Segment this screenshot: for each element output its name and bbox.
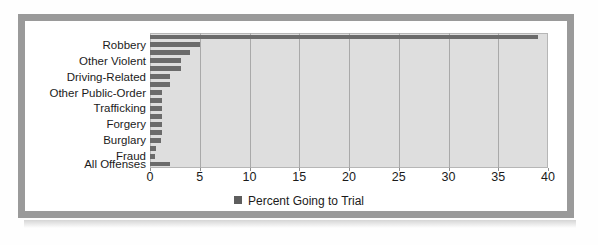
bar-chart: RobberyOther ViolentDriving-RelatedOther… <box>0 0 598 245</box>
bar <box>150 98 162 103</box>
y-axis-label: All Offenses <box>20 158 146 170</box>
bar <box>150 106 162 111</box>
bar <box>150 74 170 79</box>
bar <box>150 122 162 127</box>
y-axis-label: Burglary <box>20 134 146 146</box>
figure-root: RobberyOther ViolentDriving-RelatedOther… <box>0 0 598 245</box>
y-axis-label: Other Public-Order <box>20 87 146 99</box>
bars-layer <box>150 33 548 168</box>
bar <box>150 58 181 63</box>
legend: Percent Going to Trial <box>0 193 598 208</box>
x-axis-tick-labels: 0510152025303540 <box>0 170 598 188</box>
bar <box>150 154 155 159</box>
x-axis-label-25: 25 <box>392 170 406 184</box>
bar <box>150 35 538 40</box>
bar <box>150 114 162 119</box>
x-axis-label-10: 10 <box>243 170 257 184</box>
legend-label: Percent Going to Trial <box>248 194 364 208</box>
y-axis-label: Other Violent <box>20 55 146 67</box>
bar <box>150 66 181 71</box>
y-axis-label: Robbery <box>20 39 146 51</box>
bar <box>150 42 200 47</box>
y-axis-label: Forgery <box>20 118 146 130</box>
x-axis-label-0: 0 <box>147 170 154 184</box>
legend-swatch-icon <box>234 196 242 204</box>
bar <box>150 50 190 55</box>
bar <box>150 90 162 95</box>
bar <box>150 162 170 167</box>
bar <box>150 138 161 143</box>
x-axis-label-30: 30 <box>442 170 456 184</box>
y-axis-tick-labels: RobberyOther ViolentDriving-RelatedOther… <box>20 33 146 168</box>
x-axis-label-35: 35 <box>491 170 505 184</box>
y-axis-label: Trafficking <box>20 102 146 114</box>
x-axis-label-40: 40 <box>541 170 555 184</box>
x-axis-label-5: 5 <box>196 170 203 184</box>
bar <box>150 82 170 87</box>
bar <box>150 146 156 151</box>
y-axis-label: Driving-Related <box>20 71 146 83</box>
bar <box>150 130 162 135</box>
x-axis-label-15: 15 <box>292 170 306 184</box>
x-axis-label-20: 20 <box>342 170 356 184</box>
